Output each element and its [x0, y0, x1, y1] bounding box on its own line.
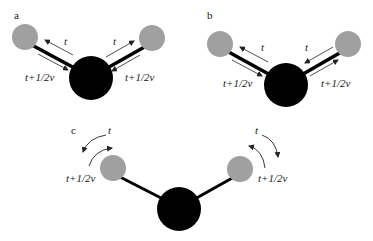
label-t-half-v-left: t+1/2v [25, 71, 55, 83]
central-atom [157, 187, 201, 231]
panel-b-label: b [207, 9, 213, 21]
label-t-right: t [113, 35, 117, 47]
central-atom [264, 63, 308, 107]
molecular-vibration-diagram: a t t t+1/2v t+1/2v b t t t+1/2v t+1/2v … [0, 0, 373, 241]
outer-atom-left [100, 155, 126, 181]
bond-left [120, 177, 165, 200]
outer-atom-left [207, 31, 233, 57]
label-t-half-v-right: t+1/2v [321, 77, 351, 89]
panel-a-label: a [14, 9, 19, 21]
outer-atom-right [335, 31, 361, 57]
outer-atom-right [227, 156, 253, 182]
label-t-right: t [305, 41, 309, 53]
panel-c-label: c [71, 124, 76, 136]
central-atom [69, 56, 113, 100]
label-t-left: t [64, 35, 68, 47]
label-t-right: t [255, 124, 259, 136]
label-t-half-v-left: t+1/2v [223, 77, 253, 89]
arrow-left-rotate-out [83, 135, 106, 152]
label-t-half-v-right: t+1/2v [125, 71, 155, 83]
bond-left [225, 50, 274, 77]
arrow-right-rotate-out [262, 135, 278, 157]
panel-b: b t t t+1/2v t+1/2v [207, 9, 361, 107]
bond-right [298, 51, 343, 77]
label-t-half-v-left: t+1/2v [66, 172, 96, 184]
label-t-half-v-right: t+1/2v [258, 172, 288, 184]
bond-right [193, 177, 234, 200]
panel-a: a t t t+1/2v t+1/2v [12, 9, 165, 100]
panel-c: c t t t+1/2v t+1/2v [66, 124, 288, 231]
label-t-left: t [108, 124, 112, 136]
outer-atom-right [139, 25, 165, 51]
label-t-left: t [261, 41, 265, 53]
outer-atom-left [12, 24, 38, 50]
